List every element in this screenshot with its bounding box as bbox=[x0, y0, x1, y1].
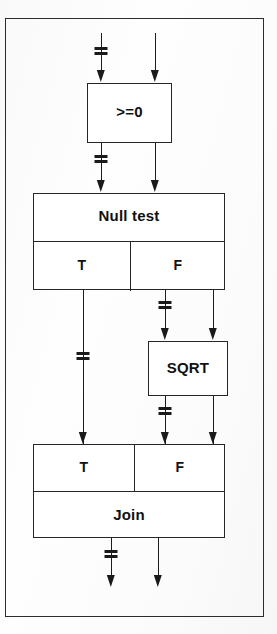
bus-tick-marker-compare-out bbox=[95, 155, 108, 163]
greater-equal-zero-label: >=0 bbox=[88, 103, 171, 120]
arrowhead-down-compare-out-left bbox=[97, 180, 105, 192]
arrowhead-down-null-true bbox=[79, 432, 87, 444]
greater-equal-zero-block[interactable]: >=0 bbox=[87, 83, 172, 143]
bus-tick-bar bbox=[77, 357, 90, 360]
bus-tick-bar bbox=[159, 306, 172, 309]
bus-tick-marker-top-left bbox=[95, 47, 108, 55]
join-block[interactable]: T F Join bbox=[33, 444, 225, 538]
wire-top-right-input bbox=[155, 33, 156, 73]
bus-tick-bar bbox=[95, 52, 108, 55]
bus-tick-marker-null-true bbox=[77, 352, 90, 360]
null-test-block[interactable]: Null test T F bbox=[33, 193, 225, 290]
diagram-canvas: >=0 Null test T F SQRT bbox=[0, 0, 277, 634]
bus-tick-bar bbox=[159, 412, 172, 415]
wire-compare-out-left bbox=[101, 143, 102, 183]
bus-tick-bar bbox=[77, 352, 90, 355]
bus-tick-bar bbox=[105, 555, 118, 558]
bus-tick-bar bbox=[159, 301, 172, 304]
join-row-divider bbox=[34, 491, 224, 492]
sqrt-block[interactable]: SQRT bbox=[148, 341, 228, 396]
arrowhead-down-sqrt-out-right bbox=[209, 432, 217, 444]
wire-null-true-to-join bbox=[83, 290, 84, 445]
null-test-label: Null test bbox=[34, 207, 224, 224]
join-label: Join bbox=[34, 506, 224, 523]
bus-tick-bar bbox=[105, 550, 118, 553]
wire-null-false-control-to-sqrt bbox=[213, 290, 214, 330]
wire-compare-out-right bbox=[155, 143, 156, 183]
null-test-true-label: T bbox=[34, 257, 130, 273]
wire-join-out-right bbox=[158, 538, 159, 578]
bus-tick-marker-sqrt-out bbox=[159, 407, 172, 415]
wire-join-out-left bbox=[111, 538, 112, 578]
bus-tick-bar bbox=[95, 155, 108, 158]
bus-tick-marker-join-out bbox=[105, 550, 118, 558]
bus-tick-bar bbox=[95, 160, 108, 163]
null-test-false-label: F bbox=[130, 257, 226, 273]
arrowhead-down-top-right bbox=[151, 70, 159, 82]
arrowhead-down-compare-out-right bbox=[151, 180, 159, 192]
join-true-label: T bbox=[34, 459, 134, 475]
arrowhead-down-null-false-control bbox=[209, 328, 217, 340]
arrowhead-down-null-false bbox=[161, 328, 169, 340]
arrowhead-down-join-out-right bbox=[154, 575, 162, 587]
arrowhead-down-sqrt-out-left bbox=[161, 432, 169, 444]
bus-tick-marker-null-false bbox=[159, 301, 172, 309]
sqrt-label: SQRT bbox=[149, 359, 227, 376]
wire-null-false-to-sqrt bbox=[165, 290, 166, 330]
bus-tick-bar bbox=[159, 407, 172, 410]
bus-tick-bar bbox=[95, 47, 108, 50]
null-test-row-divider bbox=[34, 241, 224, 242]
join-false-label: F bbox=[134, 459, 226, 475]
arrowhead-down-top-left bbox=[97, 70, 105, 82]
arrowhead-down-join-out-left bbox=[107, 575, 115, 587]
